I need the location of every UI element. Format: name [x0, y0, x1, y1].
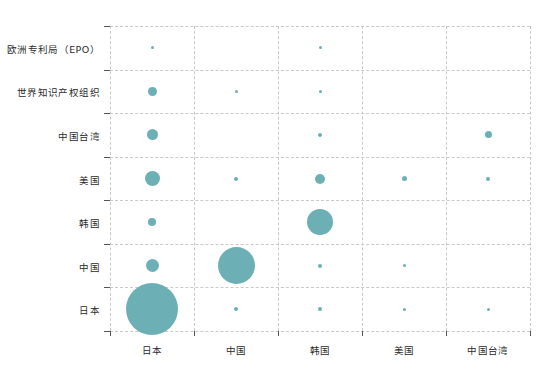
grid-line-horizontal [110, 287, 530, 288]
bubble-point [318, 133, 322, 137]
bubble-point [319, 46, 322, 49]
y-axis-tick [104, 200, 110, 201]
plot-area [110, 26, 530, 331]
grid-line-vertical [530, 26, 531, 331]
x-axis-tick-label: 中国 [194, 343, 278, 357]
bubble-point [318, 307, 322, 311]
bubble-point [402, 176, 407, 181]
bubble-point [147, 129, 158, 140]
grid-line-horizontal [110, 200, 530, 201]
grid-line-vertical [362, 26, 363, 331]
y-axis-tick [104, 26, 110, 27]
bubble-point [319, 90, 322, 93]
bubble-point [151, 46, 154, 49]
y-axis-tick [104, 331, 110, 332]
grid-line-horizontal [110, 26, 530, 27]
bubble-point [218, 247, 255, 284]
y-axis-tick [104, 287, 110, 288]
x-axis-tick [194, 331, 195, 336]
grid-line-horizontal [110, 113, 530, 114]
grid-line-vertical [194, 26, 195, 331]
y-axis-tick [104, 244, 110, 245]
y-axis-tick [104, 113, 110, 114]
x-axis-tick [446, 331, 447, 336]
y-axis-tick-label: 世界知识产权组织 [17, 85, 100, 99]
bubble-point [145, 171, 160, 186]
bubble-point [403, 308, 406, 311]
bubble-point [486, 177, 490, 181]
bubble-point [148, 218, 156, 226]
y-axis-tick-label: 中国 [79, 260, 100, 274]
y-axis-tick-label: 欧洲专利局（EPO） [7, 42, 100, 56]
bubble-point [307, 209, 333, 235]
bubble-point [148, 87, 157, 96]
bubble-point [315, 174, 325, 184]
bubble-point [235, 90, 238, 93]
bubble-point [234, 307, 238, 311]
x-axis-tick [110, 331, 111, 336]
x-axis-tick-label: 韩国 [278, 343, 362, 357]
grid-line-horizontal [110, 70, 530, 71]
grid-line-vertical [278, 26, 279, 331]
y-axis-tick-label: 美国 [79, 173, 100, 187]
bubble-point [318, 264, 322, 268]
bubble-point [403, 264, 406, 267]
grid-line-horizontal [110, 331, 530, 332]
x-axis-tick [278, 331, 279, 336]
y-axis-tick-label: 韩国 [79, 216, 100, 230]
bubble-point [126, 283, 178, 335]
x-axis-tick-label: 美国 [362, 343, 446, 357]
grid-line-vertical [446, 26, 447, 331]
bubble-point [146, 259, 159, 272]
x-axis-tick-label: 日本 [110, 343, 194, 357]
grid-line-horizontal [110, 244, 530, 245]
x-axis-tick [530, 331, 531, 336]
y-axis-tick-label: 中国台湾 [58, 129, 100, 143]
bubble-point [487, 308, 490, 311]
bubble-chart: 日本中国韩国美国中国台湾 欧洲专利局（EPO）世界知识产权组织中国台湾美国韩国中… [0, 0, 551, 372]
y-axis-tick [104, 70, 110, 71]
y-axis-tick [104, 157, 110, 158]
x-axis-tick [362, 331, 363, 336]
bubble-point [485, 131, 492, 138]
x-axis-tick-label: 中国台湾 [446, 343, 530, 357]
grid-line-vertical [110, 26, 111, 331]
y-axis-tick-label: 日本 [79, 303, 100, 317]
bubble-point [234, 177, 238, 181]
grid-line-horizontal [110, 157, 530, 158]
